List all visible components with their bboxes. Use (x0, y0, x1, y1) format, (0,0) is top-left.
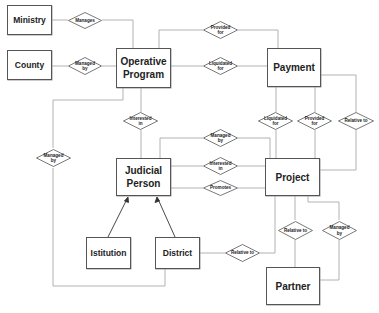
entity-label: District (163, 248, 192, 259)
relationship-label: Liquidated for (263, 116, 288, 127)
er-diagram: Ministry County Operative Program Paymen… (0, 0, 379, 313)
entity-label: Partner (275, 280, 310, 293)
entity-label: Payment (273, 61, 315, 74)
relationship-managed-by-left: Managed by (36, 149, 71, 167)
relationship-managed-by-jp: Managed by (203, 129, 238, 147)
relationship-liquidated-for: Liquidated for (203, 57, 238, 75)
entity-judicial-person: Judicial Person (116, 158, 171, 196)
entity-istitution: Istitution (86, 237, 131, 269)
relationship-managed-by-partner: Managed by (322, 221, 357, 240)
entity-operative-program: Operative Program (116, 48, 171, 88)
entity-ministry: Ministry (7, 5, 52, 35)
relationship-label: Managed by (41, 153, 66, 164)
relationship-label: Provided for (208, 25, 233, 36)
relationship-provided-for: Provided for (203, 21, 238, 39)
relationship-label: Promotes (208, 185, 233, 190)
relationship-label: Managed by (73, 61, 97, 72)
relationship-label: Interested in (208, 161, 233, 172)
relationship-label: Provided for (302, 116, 327, 127)
entity-county: County (7, 50, 52, 80)
relationship-relative-to-district: Relative to (225, 244, 260, 262)
relationship-relative-to-payment: Relative to (338, 112, 374, 130)
relationship-provided-for-project: Provided for (297, 112, 332, 130)
entity-label: Operative Program (120, 55, 166, 81)
entity-label: Istitution (91, 248, 127, 259)
relationship-interested-in: Interested in (123, 112, 158, 130)
relationship-label: Managed by (327, 225, 352, 236)
relationship-manages: Manages (68, 12, 102, 29)
entity-label: Ministry (13, 15, 46, 26)
relationship-interested-in-project: Interested in (203, 157, 238, 175)
entity-payment: Payment (267, 48, 321, 87)
relationship-label: Relative to (230, 250, 255, 255)
entity-project: Project (265, 158, 320, 196)
relationship-label: Manages (73, 18, 97, 23)
entity-partner: Partner (266, 267, 320, 305)
relationship-label: Liquidated for (208, 61, 233, 72)
entity-label: County (15, 60, 44, 71)
relationship-label: Relative to (283, 228, 308, 233)
relationship-promotes: Promotes (203, 180, 238, 196)
relationship-managed-by: Managed by (68, 57, 102, 75)
relationship-liquidated-for-project: Liquidated for (258, 112, 293, 130)
relationship-label: Interested in (128, 116, 153, 127)
relationship-label: Managed by (208, 133, 233, 144)
relationship-relative-to-partner: Relative to (278, 221, 313, 240)
entity-label: Judicial Person (123, 164, 164, 190)
relationship-label: Relative to (343, 118, 368, 123)
entity-label: Project (276, 171, 310, 184)
entity-district: District (155, 237, 200, 269)
